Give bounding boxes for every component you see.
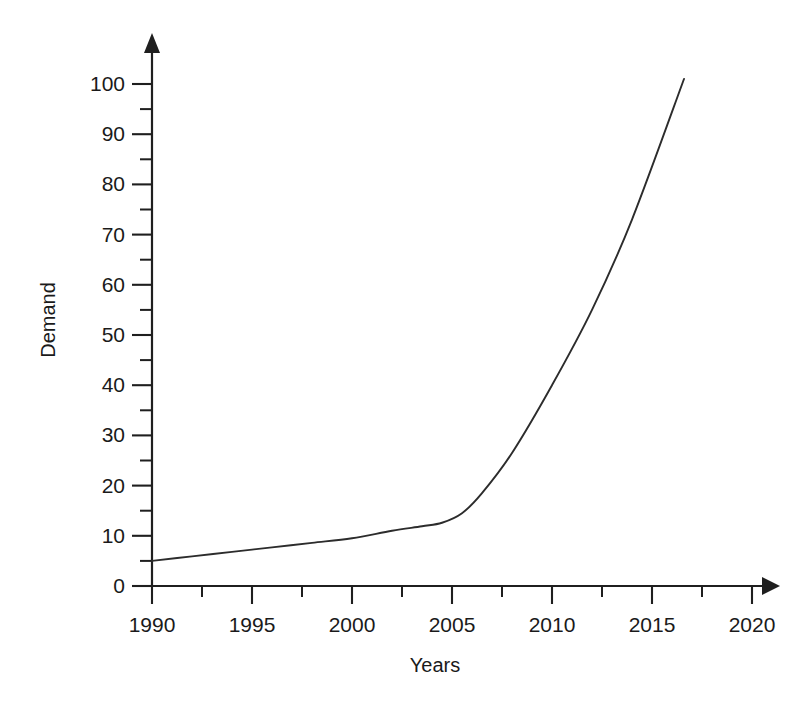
line-chart: 0102030405060708090100199019952000200520… <box>0 0 811 713</box>
x-axis-title: Years <box>410 654 460 676</box>
y-tick-label: 30 <box>102 423 125 446</box>
x-tick-label: 2000 <box>329 613 376 636</box>
x-tick-label: 1995 <box>229 613 276 636</box>
x-tick-label: 2015 <box>629 613 676 636</box>
axes-group <box>144 33 780 595</box>
chart-container: 0102030405060708090100199019952000200520… <box>0 0 811 713</box>
arrow-up-icon <box>144 33 160 53</box>
y-tick-label: 60 <box>102 273 125 296</box>
x-tick-label: 1990 <box>129 613 176 636</box>
ticks-group <box>132 84 752 604</box>
y-tick-label: 40 <box>102 373 125 396</box>
y-tick-label: 100 <box>90 72 125 95</box>
demand-curve <box>152 79 684 561</box>
arrow-right-icon <box>762 577 780 595</box>
x-tick-label: 2010 <box>529 613 576 636</box>
y-tick-label: 0 <box>113 574 125 597</box>
tick-labels-group: 0102030405060708090100199019952000200520… <box>90 72 775 636</box>
y-tick-label: 70 <box>102 223 125 246</box>
y-tick-label: 50 <box>102 323 125 346</box>
y-axis-title: Demand <box>37 282 59 358</box>
y-tick-label: 10 <box>102 524 125 547</box>
x-tick-label: 2005 <box>429 613 476 636</box>
y-tick-label: 80 <box>102 172 125 195</box>
data-series-group <box>152 79 684 561</box>
y-tick-label: 90 <box>102 122 125 145</box>
x-tick-label: 2020 <box>729 613 776 636</box>
y-tick-label: 20 <box>102 474 125 497</box>
